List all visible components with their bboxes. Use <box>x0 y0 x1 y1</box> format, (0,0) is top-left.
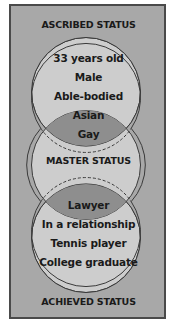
ascribed-item: Male <box>0 71 177 83</box>
overlap-item: Gay <box>0 128 177 140</box>
achieved-item: Tennis player <box>0 237 177 249</box>
achieved-item: In a relationship <box>0 218 177 230</box>
overlap-item: Asian <box>0 109 177 121</box>
overlap-item: Lawyer <box>0 199 177 211</box>
master-status-label: MASTER STATUS <box>0 155 177 166</box>
ascribed-item: 33 years old <box>0 52 177 64</box>
achieved-status-label: ACHIEVED STATUS <box>0 296 177 307</box>
achieved-item: College graduate <box>0 256 177 268</box>
ascribed-item: Able-bodied <box>0 90 177 102</box>
ascribed-status-label: ASCRIBED STATUS <box>0 19 177 30</box>
